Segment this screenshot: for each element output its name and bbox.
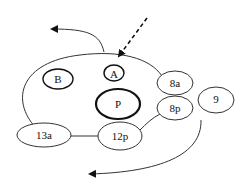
cell-8a: 8a xyxy=(157,71,193,95)
cell-label: A xyxy=(110,68,118,80)
cell-label: B xyxy=(54,73,61,85)
cell-9: 9 xyxy=(198,87,234,113)
cell-label: 8a xyxy=(170,77,181,89)
top-left-curved-arrow xyxy=(52,29,104,52)
cell-8p: 8p xyxy=(157,96,193,120)
incoming-dashed-arrow xyxy=(119,18,147,56)
embryo-outline-connector-8p-12p xyxy=(140,114,160,130)
cell-12p: 12p xyxy=(98,122,142,150)
cell-P: P xyxy=(96,89,140,119)
cell-label: 13a xyxy=(36,129,52,141)
embryo-outline xyxy=(23,54,162,128)
embryo-diagram: B A P 8a 9 8p 13a 12p xyxy=(0,0,251,188)
cell-13a: 13a xyxy=(17,123,71,147)
cell-label: P xyxy=(115,98,121,110)
cell-label: 12p xyxy=(112,130,129,142)
cell-label: 9 xyxy=(213,93,219,105)
cell-B: B xyxy=(43,69,73,89)
cell-label: 8p xyxy=(170,102,182,114)
cell-A: A xyxy=(104,65,124,81)
